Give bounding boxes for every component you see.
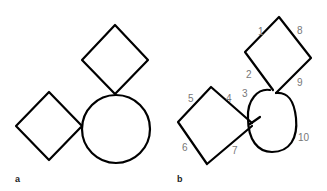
panel-a: a — [15, 25, 150, 184]
panel-label-b: b — [177, 174, 183, 184]
stroke-number-8: 8 — [297, 25, 303, 36]
stroke-number-9: 9 — [297, 77, 303, 88]
stroke-number-2: 2 — [246, 69, 252, 80]
stroke-number-10: 10 — [298, 132, 310, 143]
drawn-circle — [248, 90, 296, 152]
circle — [82, 95, 150, 163]
figure-canvas: a 1 2 3 4 5 6 7 8 9 10 b — [0, 0, 327, 191]
stroke-number-5: 5 — [188, 93, 194, 104]
diamond-top — [82, 25, 148, 94]
stroke-number-3: 3 — [242, 88, 248, 99]
panel-label-a: a — [15, 174, 21, 184]
stroke-number-7: 7 — [232, 145, 238, 156]
stroke-number-6: 6 — [182, 142, 188, 153]
stroke-number-4: 4 — [226, 93, 232, 104]
stroke-number-1: 1 — [258, 26, 264, 37]
panel-b: 1 2 3 4 5 6 7 8 9 10 b — [177, 17, 311, 184]
diamond-left — [16, 92, 82, 160]
